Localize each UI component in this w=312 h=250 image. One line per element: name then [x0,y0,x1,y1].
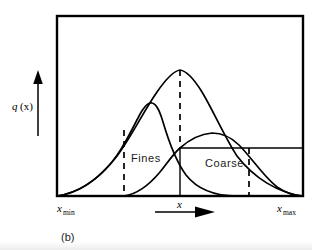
page-edge-artifact [0,241,312,250]
x-min-label: x [56,202,62,214]
x-max-label-subscript: max [283,208,296,217]
x-min-label-subscript: min [63,208,75,217]
fines-distribution-curve [57,103,237,196]
distribution-figure: q (x) x x min x max Fines Coarse (b) [0,0,312,250]
x-axis-arrow-icon [195,207,215,218]
figure-container: q (x) x x min x max Fines Coarse (b) [0,0,312,250]
y-axis-label-arg: (x) [20,100,33,113]
y-axis-arrow-icon [33,70,43,84]
y-axis-label-q: q [12,100,18,112]
x-max-label: x [276,202,282,214]
coarse-region-label: Coarse [205,157,244,169]
x-axis-label: x [176,198,182,210]
fines-region-label: Fines [131,152,161,164]
